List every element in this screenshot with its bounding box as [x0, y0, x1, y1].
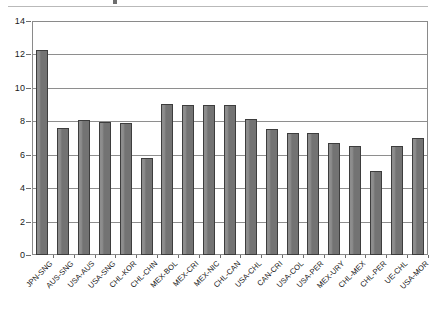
- y-tick-mark: [26, 21, 31, 22]
- x-tick-mark: [386, 255, 387, 258]
- x-axis-labels: JPN-SNGAUS-SNGUSA-AUSUSA-SNGCHL-KORCHL-C…: [0, 255, 436, 315]
- x-tick-mark: [345, 255, 346, 258]
- bar-slot: [182, 22, 194, 255]
- bar-slot: [307, 22, 319, 255]
- bar: [141, 158, 153, 255]
- y-tick-mark: [26, 54, 31, 55]
- bar: [161, 104, 173, 255]
- y-tick-label: 4: [20, 183, 25, 193]
- bar: [328, 143, 340, 255]
- bar: [245, 119, 257, 255]
- y-tick-label: 2: [20, 217, 25, 227]
- y-tick-label: 8: [20, 116, 25, 126]
- bar-slot: [245, 22, 257, 255]
- x-tick-mark: [157, 255, 158, 258]
- bar: [224, 105, 236, 255]
- bar-slot: [57, 22, 69, 255]
- bar: [57, 128, 69, 255]
- bar-slot: [287, 22, 299, 255]
- bar-slot: [120, 22, 132, 255]
- bar-slot: [78, 22, 90, 255]
- bar-slot: [349, 22, 361, 255]
- bar-slot: [203, 22, 215, 255]
- bar-slot: [412, 22, 424, 255]
- x-tick-mark: [95, 255, 96, 258]
- y-tick-label: 6: [20, 150, 25, 160]
- bar-slot: [36, 22, 48, 255]
- y-tick-mark: [26, 188, 31, 189]
- bar: [99, 122, 111, 255]
- x-tick-mark: [240, 255, 241, 258]
- bar: [182, 105, 194, 255]
- x-tick-mark: [136, 255, 137, 258]
- x-tick-mark: [199, 255, 200, 258]
- header-divider: [8, 6, 428, 7]
- y-tick-label: 12: [15, 49, 25, 59]
- y-tick-mark: [26, 222, 31, 223]
- bar: [78, 120, 90, 255]
- bar: [370, 171, 382, 255]
- bar-slot: [224, 22, 236, 255]
- x-tick-mark: [428, 255, 429, 258]
- bar-slot: [266, 22, 278, 255]
- x-tick-mark: [407, 255, 408, 258]
- bar: [287, 133, 299, 255]
- bar-slot: [370, 22, 382, 255]
- bar-chart-figure: 02468101214 JPN-SNGAUS-SNGUSA-AUSUSA-SNG…: [0, 0, 436, 315]
- bar: [120, 123, 132, 255]
- y-tick-label: 14: [15, 16, 25, 26]
- bar-series: [33, 22, 427, 255]
- x-tick-mark: [324, 255, 325, 258]
- x-tick-mark: [365, 255, 366, 258]
- bar: [36, 50, 48, 255]
- y-tick-mark: [26, 88, 31, 89]
- x-tick-mark: [74, 255, 75, 258]
- x-tick-mark: [53, 255, 54, 258]
- bar: [307, 133, 319, 255]
- x-tick-mark: [303, 255, 304, 258]
- bar-slot: [391, 22, 403, 255]
- bar: [203, 105, 215, 255]
- cropped-title-fragment: [113, 0, 117, 4]
- y-tick-mark: [26, 155, 31, 156]
- y-tick-label: 10: [15, 83, 25, 93]
- bar: [349, 146, 361, 255]
- bar: [391, 146, 403, 255]
- x-tick-mark: [282, 255, 283, 258]
- bar-slot: [328, 22, 340, 255]
- bar: [266, 129, 278, 255]
- bar: [412, 138, 424, 255]
- x-tick-mark: [220, 255, 221, 258]
- bar-slot: [99, 22, 111, 255]
- x-tick-mark: [178, 255, 179, 258]
- y-tick-mark: [26, 121, 31, 122]
- bar-slot: [161, 22, 173, 255]
- x-tick-mark: [261, 255, 262, 258]
- x-tick-mark: [115, 255, 116, 258]
- bar-slot: [141, 22, 153, 255]
